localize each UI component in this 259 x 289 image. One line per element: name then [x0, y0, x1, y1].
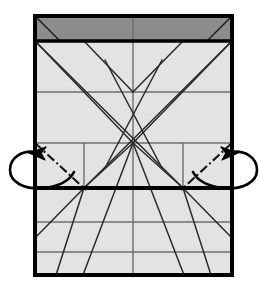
origami-diagram — [0, 0, 259, 289]
diagram-canvas — [0, 0, 259, 289]
